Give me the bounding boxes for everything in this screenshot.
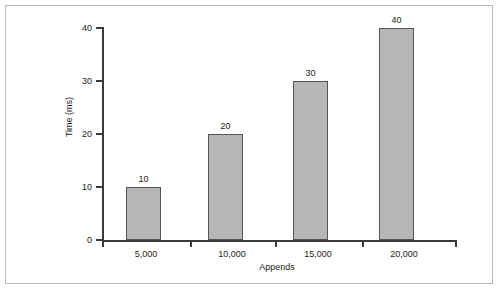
x-tick-mark-2 bbox=[275, 241, 277, 247]
bar-value-10000: 20 bbox=[193, 121, 258, 131]
x-tick-label-10000: 10,000 bbox=[200, 249, 264, 260]
y-tick-label-20: 20 bbox=[68, 129, 92, 139]
bar-20000[interactable] bbox=[379, 28, 414, 240]
x-tick-label-15000: 15,000 bbox=[286, 249, 350, 260]
bar-10000[interactable] bbox=[208, 134, 243, 240]
bar-value-20000: 40 bbox=[364, 15, 429, 25]
x-tick-mark-4 bbox=[455, 241, 457, 247]
figure: Time (ms) 40 30 20 10 0 5,000 10,000 15,… bbox=[0, 0, 499, 290]
y-tick-label-10: 10 bbox=[68, 182, 92, 192]
y-axis-title: Time (ms) bbox=[64, 47, 74, 187]
y-tick-label-40: 40 bbox=[68, 23, 92, 33]
bar-value-5000: 10 bbox=[111, 174, 176, 184]
y-tick-label-0: 0 bbox=[68, 235, 92, 245]
x-tick-label-5000: 5,000 bbox=[114, 249, 178, 260]
x-axis-title: Appends bbox=[103, 262, 451, 272]
x-axis-line bbox=[102, 240, 457, 242]
bar-5000[interactable] bbox=[126, 187, 161, 240]
bar-value-15000: 30 bbox=[278, 68, 343, 78]
x-tick-mark-3 bbox=[362, 241, 364, 247]
x-tick-mark-1 bbox=[190, 241, 192, 247]
plot-area: 10 20 30 40 bbox=[103, 28, 451, 240]
bar-15000[interactable] bbox=[293, 81, 328, 240]
x-tick-mark-0 bbox=[102, 241, 104, 247]
y-tick-label-30: 30 bbox=[68, 76, 92, 86]
x-tick-label-20000: 20,000 bbox=[372, 249, 436, 260]
